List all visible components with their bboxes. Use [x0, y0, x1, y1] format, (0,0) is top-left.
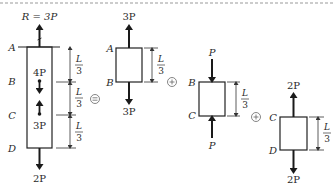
- segment-ab-point-top: A: [105, 43, 113, 54]
- main-bar-body: [27, 47, 52, 148]
- plus-circle-icon: [168, 78, 177, 87]
- svg-text:L: L: [75, 87, 82, 97]
- point-label-d: D: [7, 143, 16, 154]
- equals-circle-icon: [91, 95, 100, 104]
- plus-circle-icon-2: [252, 113, 261, 122]
- bottom-load-label: 2P: [33, 173, 46, 184]
- svg-text:3: 3: [242, 100, 248, 110]
- segment-bc-length-label: L 3: [241, 88, 249, 110]
- internal-load-3p-label: 3P: [33, 120, 46, 131]
- svg-text:3: 3: [76, 133, 82, 143]
- segment-bc-point-top: B: [187, 77, 195, 88]
- dimension-label-2: L 3: [75, 87, 83, 109]
- point-label-b: B: [7, 76, 15, 87]
- superposition-diagram: R = 3P 4P 3P 2P A B C D L 3 L: [0, 0, 335, 191]
- svg-text:L: L: [157, 54, 164, 64]
- segment-bc-point-bottom: C: [188, 110, 196, 121]
- segment-cd: 2P 2P C D L 3: [268, 80, 331, 185]
- segment-bc-body: [199, 82, 225, 116]
- svg-text:3: 3: [324, 134, 330, 144]
- segment-cd-point-bottom: D: [268, 145, 277, 156]
- dimension-label-1: L 3: [75, 54, 83, 76]
- svg-text:L: L: [323, 122, 330, 132]
- segment-cd-top-load: 2P: [287, 80, 300, 91]
- svg-text:3: 3: [158, 66, 164, 76]
- main-bar: R = 3P 4P 3P 2P A B C D L 3 L: [7, 11, 83, 184]
- segment-cd-point-top: C: [269, 112, 277, 123]
- reaction-label: R = 3P: [21, 11, 58, 22]
- segment-bc-top-load: P: [208, 47, 216, 58]
- internal-load-4p-label: 4P: [33, 67, 46, 78]
- segment-cd-length-label: L 3: [323, 122, 331, 144]
- segment-cd-bottom-load: 2P: [287, 174, 300, 185]
- segment-cd-body: [280, 117, 307, 150]
- svg-text:L: L: [75, 121, 82, 131]
- segment-bc: P P B C L 3: [187, 47, 249, 151]
- segment-ab-length-label: L 3: [157, 54, 165, 76]
- point-label-c: C: [8, 110, 16, 121]
- dimension-label-3: L 3: [75, 121, 83, 143]
- segment-ab-top-load: 3P: [122, 11, 135, 22]
- svg-text:L: L: [75, 54, 82, 64]
- segment-bc-bottom-load: P: [208, 140, 216, 151]
- svg-text:L: L: [241, 88, 248, 98]
- segment-ab-body: [116, 48, 142, 82]
- svg-text:3: 3: [76, 66, 82, 76]
- svg-text:3: 3: [76, 99, 82, 109]
- point-label-a: A: [7, 42, 15, 53]
- segment-ab-point-bottom: B: [105, 77, 113, 88]
- segment-ab: 3P 3P A B L 3: [105, 11, 165, 117]
- dimension-lines: [56, 48, 76, 148]
- segment-ab-bottom-load: 3P: [122, 106, 135, 117]
